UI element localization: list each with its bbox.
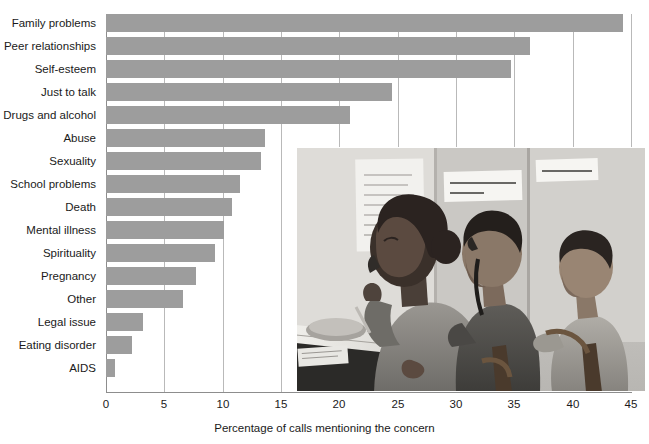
category-axis-labels: Family problems Peer relationships Self-… <box>0 14 100 392</box>
category-label-sexuality: Sexuality <box>49 152 96 170</box>
bar-eating-disorder <box>106 336 132 354</box>
tick-label-30: 30 <box>450 396 463 412</box>
bar-mental-illness <box>106 221 224 239</box>
category-label-eating-disorder: Eating disorder <box>19 336 96 354</box>
x-axis-tick-labels: 0 5 10 15 20 25 30 35 40 45 <box>0 396 649 414</box>
bar-chart-figure: Family problems Peer relationships Self-… <box>0 0 649 444</box>
category-label-mental-illness: Mental illness <box>26 221 96 239</box>
category-label-peer-relationships: Peer relationships <box>4 37 96 55</box>
bar-family-problems <box>106 14 623 32</box>
x-axis-line <box>106 392 632 393</box>
bar-drugs-and-alcohol <box>106 106 350 124</box>
category-label-drugs-and-alcohol: Drugs and alcohol <box>3 106 96 124</box>
bar-legal-issue <box>106 313 143 331</box>
category-label-pregnancy: Pregnancy <box>41 267 96 285</box>
tick-label-25: 25 <box>392 396 405 412</box>
tick-label-15: 15 <box>275 396 288 412</box>
category-label-spirituality: Spirituality <box>43 244 96 262</box>
category-label-just-to-talk: Just to talk <box>41 83 96 101</box>
bar-sexuality <box>106 152 261 170</box>
tick-label-40: 40 <box>567 396 580 412</box>
category-label-other: Other <box>67 290 96 308</box>
category-label-family-problems: Family problems <box>12 14 96 32</box>
category-label-school-problems: School problems <box>10 175 96 193</box>
bar-aids <box>106 359 115 377</box>
bar-abuse <box>106 129 265 147</box>
bar-self-esteem <box>106 60 511 78</box>
bar-other <box>106 290 183 308</box>
tick-label-10: 10 <box>217 396 230 412</box>
category-label-self-esteem: Self-esteem <box>35 60 96 78</box>
category-label-aids: AIDS <box>69 359 96 377</box>
wall-sign-listen <box>444 170 523 202</box>
tick-label-45: 45 <box>625 396 638 412</box>
hotline-call-center-photo <box>296 147 646 392</box>
x-axis-title: Percentage of calls mentioning the conce… <box>0 422 649 434</box>
category-label-abuse: Abuse <box>63 129 96 147</box>
bar-school-problems <box>106 175 240 193</box>
category-label-death: Death <box>65 198 96 216</box>
bar-peer-relationships <box>106 37 530 55</box>
category-label-legal-issue: Legal issue <box>38 313 96 331</box>
tick-label-0: 0 <box>103 396 109 412</box>
bar-death <box>106 198 232 216</box>
tick-label-20: 20 <box>333 396 346 412</box>
tick-label-5: 5 <box>161 396 167 412</box>
bar-pregnancy <box>106 267 196 285</box>
wall-sign-smile <box>536 158 599 182</box>
tick-label-35: 35 <box>508 396 521 412</box>
bar-just-to-talk <box>106 83 392 101</box>
bar-spirituality <box>106 244 215 262</box>
